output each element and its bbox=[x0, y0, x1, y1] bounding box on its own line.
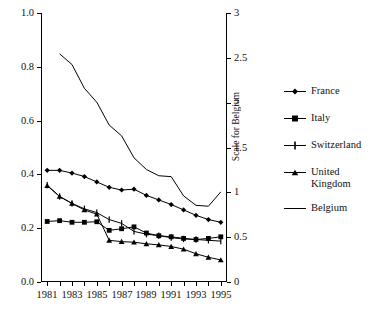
x-tick bbox=[60, 282, 61, 286]
x-tick bbox=[159, 282, 160, 286]
right-axis-title: Scale for Belgium bbox=[231, 92, 241, 161]
series-marker-france bbox=[169, 202, 174, 207]
x-tick-label: 1995 bbox=[204, 289, 238, 300]
chart-legend: France Italy Switzerland United Kingdom bbox=[284, 85, 369, 229]
x-tick bbox=[72, 282, 73, 286]
legend-item-united-kingdom: United Kingdom bbox=[284, 166, 369, 189]
series-marker-france bbox=[181, 207, 186, 212]
legend-item-italy: Italy bbox=[284, 112, 369, 126]
series-marker-united-kingdom bbox=[193, 251, 199, 256]
x-tick bbox=[97, 282, 98, 286]
x-tick bbox=[221, 282, 222, 286]
legend-item-france: France bbox=[284, 85, 369, 99]
y-tick-label-right: 3 bbox=[234, 8, 239, 19]
x-tick bbox=[84, 282, 85, 286]
series-marker-switzerland bbox=[133, 228, 134, 234]
series-marker-switzerland bbox=[146, 231, 147, 237]
y-tick-right bbox=[227, 282, 231, 283]
series-marker-france bbox=[94, 179, 99, 184]
legend-marker-line-icon bbox=[284, 203, 306, 215]
series-marker-switzerland bbox=[158, 233, 159, 239]
y-tick-left bbox=[37, 67, 41, 68]
series-marker-france bbox=[107, 185, 112, 190]
legend-item-belgium: Belgium bbox=[284, 202, 369, 216]
chart-root: 0.00.20.40.60.81.000.511.522.53198119831… bbox=[0, 0, 369, 311]
y-tick-right bbox=[227, 13, 231, 14]
series-marker-france bbox=[119, 187, 124, 192]
y-tick-label-left: 0.4 bbox=[0, 169, 34, 180]
y-tick-right bbox=[227, 192, 231, 193]
legend-label-switzerland: Switzerland bbox=[306, 139, 361, 151]
legend-label-italy: Italy bbox=[306, 112, 330, 124]
series-marker-switzerland bbox=[171, 234, 172, 240]
y-tick-label-left: 0.2 bbox=[0, 223, 34, 234]
series-marker-italy bbox=[82, 220, 87, 225]
legend-marker-plus-icon bbox=[284, 140, 306, 152]
legend-marker-square-icon bbox=[284, 113, 306, 125]
series-marker-france bbox=[82, 174, 87, 179]
y-tick-label-right: 2.5 bbox=[234, 53, 247, 64]
series-marker-italy bbox=[57, 218, 62, 223]
series-marker-switzerland bbox=[195, 236, 196, 242]
legend-marker-diamond-icon bbox=[284, 86, 306, 98]
y-tick-left bbox=[37, 174, 41, 175]
series-marker-france bbox=[144, 193, 149, 198]
y-tick-right bbox=[227, 237, 231, 238]
series-marker-italy bbox=[94, 219, 99, 224]
series-marker-france bbox=[57, 168, 62, 173]
series-marker-france bbox=[45, 168, 50, 173]
y-tick-label-right: 1 bbox=[234, 187, 239, 198]
series-line-belgium bbox=[60, 54, 221, 206]
x-tick bbox=[184, 282, 185, 286]
y-tick-left bbox=[37, 282, 41, 283]
y-tick-right bbox=[227, 58, 231, 59]
x-tick bbox=[134, 282, 135, 286]
legend-marker-triangle-icon bbox=[284, 167, 306, 179]
legend-label-france: France bbox=[306, 85, 340, 97]
y-tick-label-left: 0.0 bbox=[0, 277, 34, 288]
x-tick bbox=[171, 282, 172, 286]
legend-label-belgium: Belgium bbox=[306, 202, 347, 214]
y-tick-label-right: 0.5 bbox=[234, 232, 247, 243]
y-tick-label-right: 0 bbox=[234, 277, 239, 288]
x-tick bbox=[208, 282, 209, 286]
y-tick-label-left: 1.0 bbox=[0, 8, 34, 19]
y-tick-left bbox=[37, 228, 41, 229]
series-marker-switzerland bbox=[208, 237, 209, 243]
series-marker-switzerland bbox=[220, 238, 221, 244]
x-tick bbox=[196, 282, 197, 286]
series-marker-switzerland bbox=[121, 220, 122, 226]
y-tick-label-left: 0.6 bbox=[0, 116, 34, 127]
series-marker-italy bbox=[45, 219, 50, 224]
series-marker-france bbox=[156, 197, 161, 202]
x-tick bbox=[146, 282, 147, 286]
y-tick-left bbox=[37, 121, 41, 122]
series-marker-united-kingdom bbox=[44, 183, 50, 188]
series-marker-france bbox=[131, 187, 136, 192]
legend-label-united-kingdom: United Kingdom bbox=[306, 166, 369, 189]
series-marker-switzerland bbox=[183, 236, 184, 242]
series-marker-switzerland bbox=[109, 216, 110, 222]
series-marker-italy bbox=[119, 226, 124, 231]
series-layer bbox=[41, 13, 227, 283]
x-tick bbox=[47, 282, 48, 286]
series-marker-italy bbox=[107, 228, 112, 233]
series-marker-france bbox=[69, 170, 74, 175]
y-tick-left bbox=[37, 13, 41, 14]
series-marker-france bbox=[206, 217, 211, 222]
legend-item-switzerland: Switzerland bbox=[284, 139, 369, 153]
series-marker-france bbox=[218, 220, 223, 225]
y-tick-label-left: 0.8 bbox=[0, 62, 34, 73]
x-tick bbox=[109, 282, 110, 286]
series-marker-united-kingdom bbox=[69, 201, 75, 206]
x-tick bbox=[122, 282, 123, 286]
series-marker-italy bbox=[70, 220, 75, 225]
series-marker-france bbox=[193, 213, 198, 218]
